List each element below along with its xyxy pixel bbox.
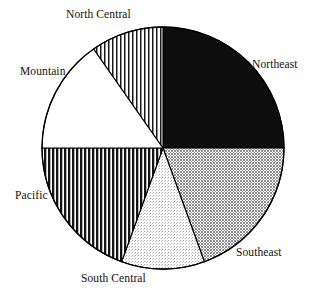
pie-label-pacific: Pacific	[15, 190, 48, 202]
pie-label-mountain: Mountain	[20, 66, 66, 78]
pie-slice-northeast[interactable]	[163, 27, 284, 148]
pie-label-southeast: Southeast	[236, 247, 282, 259]
pie-label-north-central: North Central	[66, 9, 131, 21]
pie-chart: North Central Northeast Mountain Pacific…	[0, 0, 313, 293]
pie-label-south-central: South Central	[81, 273, 146, 285]
pie-label-northeast: Northeast	[252, 59, 298, 71]
